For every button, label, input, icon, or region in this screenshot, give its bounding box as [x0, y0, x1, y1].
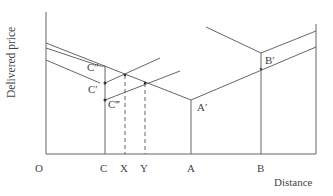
tick-label-b: B — [257, 163, 264, 174]
label-a-prime: A′ — [197, 102, 207, 113]
point-y-intersection — [144, 82, 147, 85]
tick-label-o: O — [35, 163, 43, 174]
y-axis-label: Delivered price — [5, 27, 17, 98]
price-gradient-a-from-left — [46, 43, 191, 100]
tick-label-y: Y — [140, 163, 148, 174]
gradient-from-c-prime — [105, 58, 160, 83]
label-c-triple-prime: C‴ — [108, 99, 120, 110]
point-b-cross — [260, 68, 262, 70]
label-c-double-prime: C″ — [87, 62, 99, 73]
label-c-prime: C′ — [88, 84, 98, 95]
point-c-triple-prime — [104, 99, 107, 102]
tick-label-a: A — [187, 163, 195, 174]
gradient-b-left — [206, 27, 261, 53]
x-axis-label: Distance — [274, 177, 312, 188]
gradient-a-right — [191, 47, 316, 100]
label-b-prime: B′ — [265, 55, 275, 66]
diagram-canvas — [0, 0, 333, 196]
tick-label-c: C — [100, 163, 107, 174]
gradient-b-right — [261, 31, 316, 53]
gradient-from-c-triple-prime — [105, 71, 180, 100]
point-c-prime — [104, 82, 107, 85]
point-x-intersection — [124, 74, 127, 77]
tick-label-x: X — [120, 163, 128, 174]
